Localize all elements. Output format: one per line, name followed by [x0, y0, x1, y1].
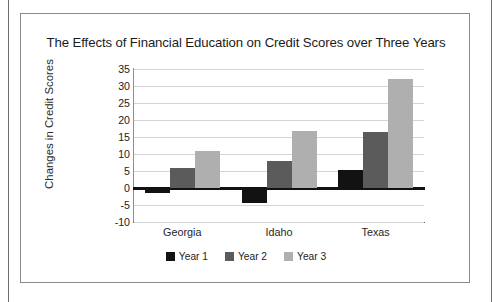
y-tick-label: 5: [104, 165, 130, 177]
y-tick-label: 25: [104, 97, 130, 109]
legend-item-year-2[interactable]: Year 2: [225, 251, 267, 262]
y-axis-tick-labels: 35302520151050-5-10: [100, 69, 130, 222]
gridline-35: [134, 69, 424, 70]
bar-texas-year-1: [338, 170, 363, 188]
legend-label: Year 2: [238, 251, 267, 262]
chart-title: The Effects of Financial Education on Cr…: [21, 35, 471, 50]
x-category-label-idaho: Idaho: [265, 226, 292, 238]
y-tick-label: -5: [104, 199, 130, 211]
y-tick-label: -10: [104, 216, 130, 228]
bar-idaho-year-3: [292, 131, 317, 188]
gridline--5: [134, 205, 424, 206]
x-axis-category-labels: GeorgiaIdahoTexas: [134, 226, 424, 242]
plot-area: [134, 69, 424, 222]
bar-georgia-year-3: [195, 151, 220, 188]
bar-texas-year-2: [363, 132, 388, 188]
legend-item-year-3[interactable]: Year 3: [284, 251, 326, 262]
gridline-20: [134, 120, 424, 121]
legend-swatch-icon: [166, 252, 175, 261]
bar-georgia-year-2: [170, 168, 195, 188]
page-border-right-rule: [491, 0, 492, 302]
chart-panel: The Effects of Financial Education on Cr…: [20, 13, 470, 283]
bar-georgia-year-1: [145, 188, 170, 193]
gridline-30: [134, 86, 424, 87]
gridline-25: [134, 103, 424, 104]
bar-texas-year-3: [388, 79, 413, 188]
y-axis-title: Changes in Credit Scores: [43, 44, 55, 204]
gridline--10: [134, 222, 424, 223]
y-tick-label: 30: [104, 80, 130, 92]
page-canvas: The Effects of Financial Education on Cr…: [0, 0, 499, 302]
x-category-label-texas: Texas: [362, 226, 390, 238]
y-tick-label: 35: [104, 63, 130, 75]
legend-swatch-icon: [225, 252, 234, 261]
y-tick-label: 15: [104, 131, 130, 143]
x-category-label-georgia: Georgia: [163, 226, 201, 238]
legend-item-year-1[interactable]: Year 1: [166, 251, 208, 262]
y-tick-label: 0: [104, 182, 130, 194]
y-tick-label: 10: [104, 148, 130, 160]
legend-label: Year 3: [297, 251, 326, 262]
legend-label: Year 1: [179, 251, 208, 262]
bar-idaho-year-2: [267, 161, 292, 188]
page-border-left-rule: [8, 0, 9, 302]
legend-swatch-icon: [284, 252, 293, 261]
bar-idaho-year-1: [242, 188, 267, 203]
chart-legend: Year 1Year 2Year 3: [21, 251, 471, 262]
y-tick-label: 20: [104, 114, 130, 126]
